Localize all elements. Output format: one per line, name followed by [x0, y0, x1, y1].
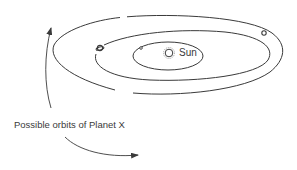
solar-system-diagram: Sun Possible orbits of Planet X	[0, 0, 297, 170]
planet-x-caption: Possible orbits of Planet X	[14, 120, 125, 130]
sun-label: Sun	[179, 48, 197, 58]
ringed-planet-icon	[96, 45, 105, 51]
planet-dot-icon	[140, 47, 143, 50]
planet-icon	[262, 31, 266, 35]
planet-x-orbit-arrow-right	[65, 137, 138, 156]
sun-icon	[164, 48, 175, 59]
orbit-diagram-canvas	[0, 0, 297, 170]
planet-x-orbit-arrow-up	[46, 28, 51, 108]
